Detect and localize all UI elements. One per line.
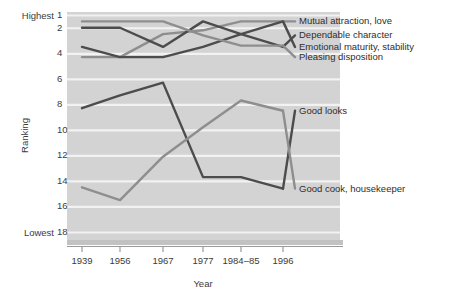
y-axis-tick-label: 8 [57,98,62,109]
series-label-4: Good looks [299,105,347,116]
series-label-1: Dependable character [299,29,392,40]
y-axis-tick-label: 10 [57,124,68,135]
series-label-3: Pleasing disposition [299,51,383,62]
series-label-0: Mutual attraction, love [299,15,392,26]
x-axis-tick-label: 1939 [71,255,92,266]
series-line-4[interactable] [82,83,283,189]
y-axis-tick-label: 18 [57,226,68,237]
x-axis-tick-label: 1967 [152,255,173,266]
y-axis-tick-label: 1 [57,9,62,20]
y-axis-lowest-label: Lowest [2,227,54,238]
ranking-line-chart: 124681012141618 19391956196719771984–851… [0,0,456,300]
series-leader-2 [283,21,295,47]
series-leader-3 [283,46,295,57]
y-axis-highest-label: Highest [2,10,54,21]
y-axis-title: Ranking [19,106,30,166]
series-line-5[interactable] [82,101,283,201]
x-axis-tick-label: 1956 [109,255,130,266]
y-axis-tick-label: 14 [57,175,68,186]
series-label-5: Good cook, housekeeper [299,183,405,194]
y-axis-tick-label: 16 [57,200,68,211]
x-axis-tick-label: 1977 [192,255,213,266]
y-axis-tick-label: 12 [57,149,68,160]
x-axis-tick-label: 1984–85 [223,255,260,266]
x-axis-title: Year [193,278,212,289]
y-axis-tick-label: 2 [57,22,62,33]
y-axis-tick-label: 6 [57,73,62,84]
y-axis-tick-label: 4 [57,47,62,58]
x-axis-tick-label: 1996 [272,255,293,266]
series-line-1[interactable] [82,21,283,47]
